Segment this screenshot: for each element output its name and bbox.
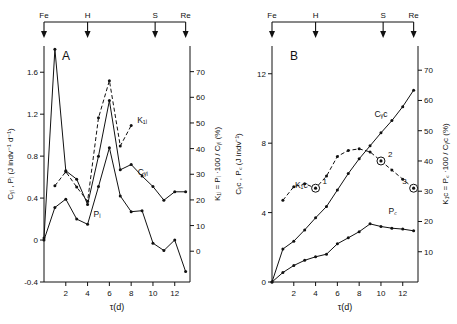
data-point <box>369 150 372 153</box>
data-point <box>271 281 274 284</box>
y-tick-label-right: 70 <box>424 66 433 75</box>
data-point <box>97 155 100 158</box>
annotation-label-3: 3 <box>402 177 407 186</box>
x-axis-title: τ(d) <box>338 302 353 312</box>
data-point <box>97 116 100 119</box>
figure-root: FeHSRe1.61.20.80.40-0.470605040302010024… <box>0 0 457 324</box>
y-tick-label-right: 30 <box>424 187 433 196</box>
series-group <box>43 48 188 273</box>
data-point <box>141 209 144 212</box>
data-point <box>43 239 46 242</box>
data-point <box>64 170 67 173</box>
data-point <box>108 79 111 82</box>
annotation-dot <box>379 159 382 162</box>
panel-title: B <box>290 49 298 63</box>
data-point <box>336 189 339 192</box>
annotation-dot <box>314 187 317 190</box>
event-label-fe: Fe <box>39 11 49 20</box>
data-point <box>390 227 393 230</box>
curve-label-Cᵧᵢ: Cᵧᵢ <box>138 167 148 177</box>
data-point <box>390 169 393 172</box>
x-tick-label: 8 <box>357 289 362 298</box>
event-arrow-head-re <box>183 31 189 38</box>
annotation-label-2: 2 <box>388 150 393 159</box>
panel-title: A <box>62 49 70 63</box>
y-tick-label-left: 0 <box>262 278 267 287</box>
x-tick-label: 2 <box>64 289 69 298</box>
y-tick-label-right: 60 <box>196 93 205 102</box>
y-tick-label-left: 1.6 <box>27 68 39 77</box>
series-line-P꜀ <box>272 224 414 282</box>
data-point <box>369 144 372 147</box>
event-label-re: Re <box>409 11 420 20</box>
data-point <box>292 264 295 267</box>
annotation-dot <box>412 187 415 190</box>
data-point <box>379 225 382 228</box>
data-point <box>336 155 339 158</box>
y-tick-label-left: 8 <box>262 139 267 148</box>
y-tick-label-right: 60 <box>424 96 433 105</box>
x-tick-label: 6 <box>335 289 340 298</box>
data-point <box>86 200 89 203</box>
x-tick-label: 6 <box>107 289 112 298</box>
event-axis: FeHSRe <box>267 11 419 38</box>
curve-label-P꜀: P꜀ <box>389 206 398 216</box>
data-point <box>184 270 187 273</box>
data-point <box>64 198 67 201</box>
data-point <box>53 206 56 209</box>
data-point <box>53 184 56 187</box>
event-arrow-head-s <box>152 31 158 38</box>
data-point <box>53 48 56 51</box>
y-tick-label-left: -0.4 <box>24 278 38 287</box>
data-point <box>130 163 133 166</box>
y-tick-label-right: 70 <box>196 68 205 77</box>
data-point <box>281 271 284 274</box>
panel-b: FeHSRe128407060504030201024681012Cᵧc , P… <box>228 0 456 324</box>
series-line-Cᵧᵢ <box>44 49 186 238</box>
x-tick-label: 12 <box>170 289 179 298</box>
x-axis-title: τ(d) <box>110 302 125 312</box>
data-point <box>347 172 350 175</box>
data-point <box>86 203 89 206</box>
y-tick-label-left: 12 <box>257 70 266 79</box>
data-point <box>303 228 306 231</box>
event-label-s: S <box>152 11 157 20</box>
event-axis: FeHSRe <box>39 11 191 38</box>
data-point <box>303 259 306 262</box>
y-tick-label-left: 0.8 <box>27 152 39 161</box>
y-tick-label-right: 50 <box>196 119 205 128</box>
data-point <box>162 199 165 202</box>
data-point <box>119 145 122 148</box>
y-tick-label-right: 20 <box>196 196 205 205</box>
y-tick-label-right: 10 <box>424 248 433 257</box>
data-point <box>314 255 317 258</box>
data-point <box>75 218 78 221</box>
data-point <box>412 229 415 232</box>
data-point <box>281 199 284 202</box>
y-tick-label-right: 10 <box>196 222 205 231</box>
data-point <box>401 228 404 231</box>
event-label-h: H <box>85 11 91 20</box>
data-point <box>173 190 176 193</box>
data-point <box>162 249 165 252</box>
data-point <box>151 242 154 245</box>
curve-label-Cᵧc: Cᵧc <box>374 109 388 119</box>
y-tick-label-left: 0.4 <box>27 194 39 203</box>
curve-label-Pᵢ: Pᵢ <box>94 209 101 219</box>
y-tick-label-right: 30 <box>196 170 205 179</box>
y-axis-title-left: Cᵧᵢ , Pᵢ (J indv⁻¹ d⁻¹) <box>6 128 15 200</box>
y-tick-label-left: 0 <box>34 236 39 245</box>
data-point <box>281 248 284 251</box>
event-arrow-head-re <box>411 31 417 38</box>
data-point <box>358 230 361 233</box>
x-tick-label: 12 <box>398 289 407 298</box>
y-tick-label-right: 40 <box>196 145 205 154</box>
data-point <box>390 119 393 122</box>
panel-a: FeHSRe1.61.20.80.40-0.470605040302010024… <box>0 0 228 324</box>
y-tick-label-right: 0 <box>196 247 201 256</box>
data-point <box>401 105 404 108</box>
event-arrow-head-fe <box>41 31 47 38</box>
curve-label-group: CᵧᵢK₁ᵢPᵢ <box>94 115 148 219</box>
data-point <box>358 147 361 150</box>
data-point <box>119 168 122 171</box>
